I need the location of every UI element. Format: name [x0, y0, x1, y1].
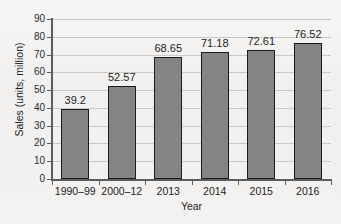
y-axis-tick-label: 0: [19, 174, 45, 184]
bar-value-label: 68.65: [144, 43, 192, 54]
y-axis-tick-label: 30: [19, 121, 45, 131]
y-axis-tick-label-wrapper: 10: [14, 156, 45, 166]
y-axis-tick-label: 90: [19, 14, 45, 24]
bar: [61, 109, 89, 179]
bar-value-label: 76.52: [284, 29, 332, 40]
bar-value-label: 71.18: [191, 38, 239, 49]
y-axis-tick-label-wrapper: 90: [14, 14, 45, 24]
y-axis-tick-label-wrapper: 50: [14, 85, 45, 95]
x-axis-title: Year: [52, 201, 331, 212]
y-axis-tick-label-wrapper: 80: [14, 32, 45, 42]
bar: [247, 50, 275, 179]
bar-value-label: 72.61: [237, 36, 285, 47]
y-axis-tick-label-wrapper: 70: [14, 50, 45, 60]
y-axis-tick-label: 10: [19, 156, 45, 166]
y-axis-tick-label: 20: [19, 138, 45, 148]
y-axis-tick-label: 40: [19, 103, 45, 113]
bar: [154, 57, 182, 179]
y-axis-tick-label: 60: [19, 67, 45, 77]
y-axis-tick-label-wrapper: 60: [14, 67, 45, 77]
x-axis-line: [51, 179, 332, 181]
y-axis-tick-label-wrapper: 30: [14, 121, 45, 131]
y-axis-tick-label: 70: [19, 50, 45, 60]
x-axis-tick-label: 2016: [280, 186, 336, 197]
bar-chart-figure: Sales (units, million) 01020304050607080…: [0, 0, 341, 224]
bar-value-label: 39.2: [51, 95, 99, 106]
bar: [294, 43, 322, 179]
y-axis-tick-label-wrapper: 20: [14, 138, 45, 148]
bar: [201, 52, 229, 179]
y-axis-tick-label-wrapper: 0: [14, 174, 45, 184]
bar-value-label: 52.57: [98, 72, 146, 83]
y-axis-tick-label: 80: [19, 32, 45, 42]
y-axis-tick-label: 50: [19, 85, 45, 95]
bar: [108, 86, 136, 179]
y-axis-tick-label-wrapper: 40: [14, 103, 45, 113]
